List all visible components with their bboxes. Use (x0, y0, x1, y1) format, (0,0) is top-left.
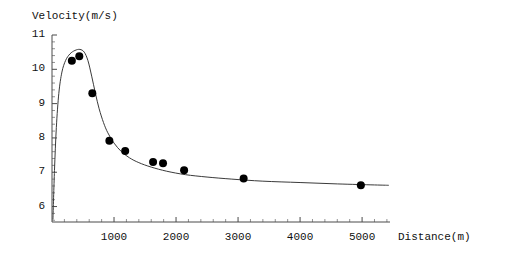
data-point (357, 181, 365, 189)
y-tick-label: 7 (23, 165, 45, 177)
axes (52, 35, 390, 222)
velocity-distance-plot: Velocity(m/s) Distance(m) 67891011100020… (0, 0, 506, 273)
y-tick-label: 6 (23, 200, 45, 212)
data-point (240, 174, 248, 182)
x-tick-label: 4000 (278, 231, 322, 243)
x-tick-label: 3000 (216, 231, 260, 243)
y-tick-label: 8 (23, 131, 45, 143)
data-point (149, 158, 157, 166)
data-point (180, 166, 188, 174)
data-point (68, 57, 76, 65)
data-point (105, 137, 113, 145)
x-tick-label: 2000 (154, 231, 198, 243)
data-points (68, 52, 365, 189)
x-axis-title: Distance(m) (398, 231, 471, 243)
y-tick-label: 10 (23, 62, 45, 74)
x-tick-label: 1000 (92, 231, 136, 243)
fit-curve (53, 49, 389, 219)
y-axis-title: Velocity(m/s) (32, 10, 118, 22)
x-axis-ticks (64, 217, 386, 222)
y-tick-label: 9 (23, 97, 45, 109)
x-tick-label: 5000 (340, 231, 384, 243)
data-point (88, 89, 96, 97)
data-point (75, 52, 83, 60)
y-tick-label: 11 (23, 28, 45, 40)
data-point (159, 159, 167, 167)
data-point (121, 147, 129, 155)
